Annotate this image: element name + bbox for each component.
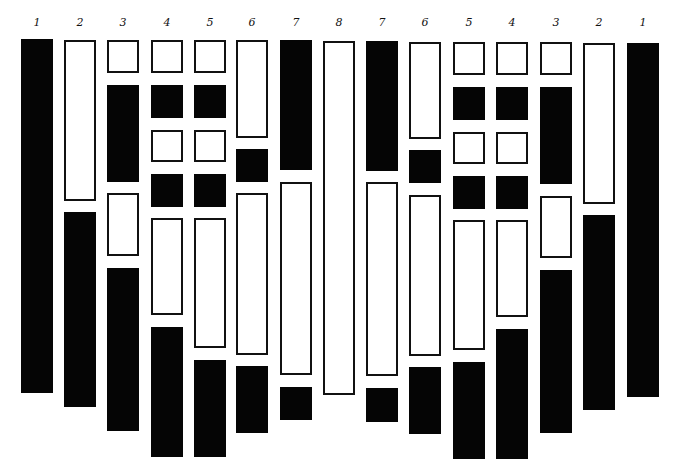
outlined-segment (151, 40, 183, 73)
column-label: 3 (107, 16, 139, 29)
outlined-segment (194, 130, 226, 162)
outlined-segment (236, 40, 268, 138)
outlined-segment (453, 220, 485, 350)
filled-segment (583, 215, 615, 410)
outlined-segment (107, 193, 139, 256)
outlined-segment (453, 132, 485, 164)
column-label: 4 (496, 16, 528, 29)
filled-segment (107, 268, 139, 431)
outlined-segment (194, 40, 226, 73)
column-label: 7 (366, 16, 398, 29)
column-label: 1 (627, 16, 659, 29)
column-label: 4 (151, 16, 183, 29)
outlined-segment (540, 196, 572, 258)
filled-segment (627, 43, 659, 397)
outlined-segment (280, 182, 312, 375)
outlined-segment (64, 40, 96, 201)
filled-segment (496, 87, 528, 120)
outlined-segment (583, 43, 615, 204)
filled-segment (151, 174, 183, 207)
filled-segment (151, 85, 183, 118)
outlined-segment (236, 193, 268, 355)
filled-segment (107, 85, 139, 182)
outlined-segment (496, 42, 528, 75)
filled-segment (366, 388, 398, 422)
outlined-segment (151, 130, 183, 162)
outlined-segment (496, 132, 528, 164)
filled-segment (21, 39, 53, 393)
banded-bar-diagram: 123456787654321 (0, 0, 681, 474)
filled-segment (496, 176, 528, 209)
filled-segment (540, 270, 572, 433)
filled-segment (496, 329, 528, 459)
column-label: 6 (409, 16, 441, 29)
outlined-segment (366, 182, 398, 376)
filled-segment (280, 387, 312, 420)
column-label: 5 (194, 16, 226, 29)
outlined-segment (194, 218, 226, 348)
outlined-segment (107, 40, 139, 73)
filled-segment (194, 174, 226, 207)
column-label: 2 (583, 16, 615, 29)
filled-segment (236, 149, 268, 182)
column-label: 7 (280, 16, 312, 29)
outlined-segment (323, 41, 355, 395)
filled-segment (453, 176, 485, 209)
filled-segment (366, 41, 398, 171)
column-label: 2 (64, 16, 96, 29)
column-label: 3 (540, 16, 572, 29)
column-label: 1 (21, 16, 53, 29)
column-label: 8 (323, 16, 355, 29)
outlined-segment (151, 218, 183, 315)
filled-segment (64, 212, 96, 407)
filled-segment (453, 362, 485, 459)
filled-segment (151, 327, 183, 457)
filled-segment (236, 366, 268, 433)
outlined-segment (496, 220, 528, 317)
filled-segment (280, 40, 312, 170)
column-label: 5 (453, 16, 485, 29)
filled-segment (453, 87, 485, 120)
filled-segment (194, 85, 226, 118)
outlined-segment (409, 42, 441, 139)
outlined-segment (540, 42, 572, 75)
filled-segment (409, 150, 441, 183)
column-label: 6 (236, 16, 268, 29)
filled-segment (540, 87, 572, 184)
filled-segment (194, 360, 226, 457)
outlined-segment (453, 42, 485, 75)
filled-segment (409, 367, 441, 434)
outlined-segment (409, 195, 441, 356)
